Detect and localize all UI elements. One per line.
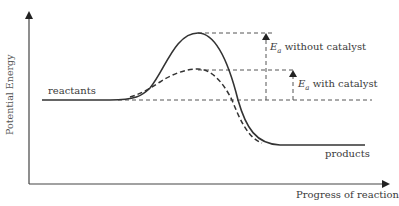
catalyzed-curve bbox=[130, 69, 262, 143]
ea-without-catalyst-label: Ea without catalyst bbox=[270, 41, 366, 55]
reactants-label: reactants bbox=[48, 85, 96, 96]
y-axis-label: Potential Energy bbox=[4, 54, 15, 135]
x-axis-label: Progress of reaction bbox=[296, 189, 399, 200]
y-axis-arrow-icon bbox=[25, 11, 33, 19]
ea-catalyzed-arrowhead-icon bbox=[289, 70, 297, 77]
products-label: products bbox=[325, 148, 370, 159]
x-axis-arrow-icon bbox=[382, 180, 390, 188]
ea-uncatalyzed-arrowhead-icon bbox=[262, 33, 270, 40]
ea-with-catalyst-label: Ea with catalyst bbox=[298, 78, 378, 92]
